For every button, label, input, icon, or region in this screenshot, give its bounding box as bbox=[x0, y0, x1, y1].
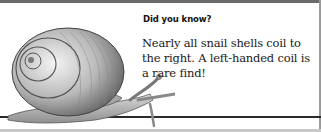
fact-text: Nearly all snail shells coil to the righ… bbox=[142, 36, 320, 81]
top-border bbox=[0, 0, 321, 3]
kicker-heading: Did you know? bbox=[143, 14, 211, 24]
fact-card: Did you know? Nearly all snail shells co… bbox=[0, 0, 321, 132]
